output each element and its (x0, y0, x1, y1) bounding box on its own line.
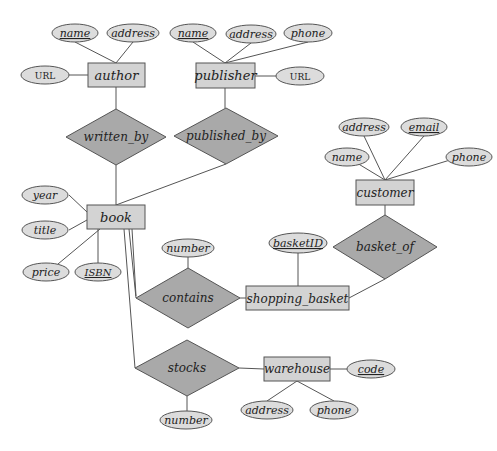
relationship-basket-of[interactable]: basket_of (333, 215, 437, 279)
attribute-label: ISBN (84, 267, 113, 278)
attribute-author-address[interactable]: address (107, 24, 159, 42)
attribute-label: email (409, 121, 440, 134)
attribute-label: year (32, 189, 58, 202)
attribute-publisher-phone[interactable]: phone (284, 24, 332, 42)
entity-label: publisher (194, 68, 257, 83)
attribute-warehouse-code[interactable]: code (347, 360, 395, 378)
attribute-book-year[interactable]: year (22, 186, 68, 204)
relationship-label: stocks (168, 361, 206, 375)
attribute-customer-email[interactable]: email (401, 118, 447, 136)
entity-label: warehouse (264, 362, 330, 376)
attribute-label: phone (452, 151, 487, 164)
attribute-label: address (245, 404, 289, 417)
attribute-book-isbn[interactable]: ISBN (75, 263, 121, 281)
entity-shopping-basket[interactable]: shopping_basket (246, 286, 349, 310)
attribute-label: address (229, 28, 273, 41)
entity-warehouse[interactable]: warehouse (264, 357, 330, 381)
attribute-label: phone (291, 27, 326, 40)
attribute-label: basketID (273, 237, 323, 250)
attribute-label: name (178, 27, 209, 40)
attribute-basket-id[interactable]: basketID (269, 233, 327, 253)
attribute-publisher-address[interactable]: address (226, 25, 276, 43)
attribute-author-url[interactable]: URL (21, 66, 69, 84)
relationship-label: published_by (186, 129, 266, 143)
relationship-written-by[interactable]: written_by (66, 109, 166, 165)
attribute-contains-number[interactable]: number (162, 239, 214, 257)
attribute-author-name[interactable]: name (52, 24, 98, 42)
relationship-published-by[interactable]: published_by (174, 108, 278, 164)
attribute-label: address (111, 27, 155, 40)
entity-label: book (100, 210, 132, 225)
attribute-label: title (34, 224, 57, 237)
entity-label: customer (357, 186, 415, 200)
er-diagram: author publisher book customer shopping_… (0, 0, 497, 451)
relationship-label: contains (162, 291, 213, 305)
attribute-customer-address[interactable]: address (339, 118, 389, 136)
attribute-warehouse-address[interactable]: address (241, 401, 293, 419)
entity-author[interactable]: author (88, 63, 145, 87)
relationship-contains[interactable]: contains (136, 268, 240, 328)
attribute-publisher-url[interactable]: URL (276, 67, 324, 85)
attribute-label: phone (317, 404, 352, 417)
attribute-label: name (60, 27, 91, 40)
entity-publisher[interactable]: publisher (194, 63, 257, 88)
attribute-warehouse-phone[interactable]: phone (310, 401, 358, 419)
attribute-label: code (358, 363, 385, 376)
attribute-publisher-name[interactable]: name (170, 24, 216, 42)
attribute-label: address (342, 121, 386, 134)
attribute-customer-phone[interactable]: phone (446, 148, 492, 166)
relationship-stocks[interactable]: stocks (135, 340, 239, 396)
attribute-label: price (32, 266, 61, 279)
entity-book[interactable]: book (87, 205, 145, 229)
entity-label: author (95, 68, 140, 83)
attribute-label: name (332, 151, 363, 164)
relationship-label: basket_of (356, 240, 416, 254)
attribute-label: URL (35, 71, 55, 81)
entity-customer[interactable]: customer (356, 180, 415, 205)
attribute-book-price[interactable]: price (23, 263, 69, 281)
attribute-book-title[interactable]: title (22, 221, 68, 239)
attribute-customer-name[interactable]: name (325, 148, 369, 166)
attribute-stocks-number[interactable]: number (160, 411, 212, 429)
relationship-label: written_by (84, 130, 149, 144)
attribute-label: number (164, 414, 208, 427)
attribute-label: URL (290, 72, 310, 82)
attribute-label: number (166, 242, 210, 255)
entity-label: shopping_basket (247, 292, 349, 306)
